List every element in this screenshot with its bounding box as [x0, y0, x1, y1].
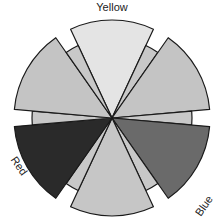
label-yellow: Yellow [96, 1, 127, 13]
color-wheel-sectors [14, 20, 209, 216]
color-wheel-diagram: Yellow Red Blue [0, 0, 219, 224]
label-blue: Blue [192, 193, 214, 218]
